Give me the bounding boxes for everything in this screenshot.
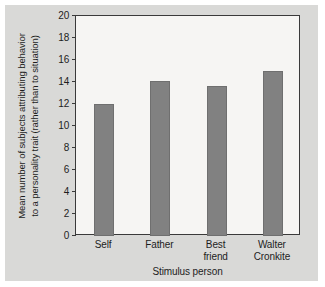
y-axis-tick-mark <box>72 37 76 38</box>
chart-figure: Mean number of subjects attributing beha… <box>0 0 325 287</box>
y-axis-tick-label: 12 <box>45 97 69 110</box>
y-axis-tick-label: 8 <box>45 141 69 154</box>
y-axis-tick-mark <box>72 15 76 16</box>
x-axis-title: Stimulus person <box>75 266 300 277</box>
y-axis-tick-mark <box>72 59 76 60</box>
y-axis-tick-mark <box>72 235 76 236</box>
y-axis-tick-mark <box>72 169 76 170</box>
y-axis-tick-label: 16 <box>45 53 69 66</box>
bar <box>263 71 283 236</box>
y-axis-tick-mark <box>72 147 76 148</box>
y-axis-tick-label: 18 <box>45 31 69 44</box>
y-axis-tick-label: 10 <box>45 119 69 132</box>
y-axis-tick-mark <box>72 213 76 214</box>
x-axis-tick-label-line: Walter <box>232 239 312 251</box>
y-axis-tick-label: 2 <box>45 207 69 220</box>
plot-frame: 02468101214161820 <box>75 15 300 235</box>
bar <box>150 81 170 236</box>
y-axis-title: Mean number of subjects attributing beha… <box>15 16 41 236</box>
plot-area: 02468101214161820 <box>76 16 299 234</box>
y-axis-tick-mark <box>72 103 76 104</box>
y-axis-tick-mark <box>72 81 76 82</box>
bar <box>207 86 227 236</box>
y-axis-title-line-1: Mean number of subjects attributing beha… <box>15 16 28 236</box>
x-axis-tick-label-line: Cronkite <box>232 251 312 263</box>
y-axis-tick-label: 6 <box>45 163 69 176</box>
y-axis-tick-label: 14 <box>45 75 69 88</box>
y-axis-title-line-2: to a personality trait (rather than to s… <box>28 16 41 236</box>
y-axis-tick-label: 20 <box>45 9 69 22</box>
y-axis-tick-label: 4 <box>45 185 69 198</box>
bar <box>94 104 114 236</box>
x-axis-tick-label: WalterCronkite <box>232 239 312 263</box>
y-axis-tick-mark <box>72 191 76 192</box>
y-axis-tick-mark <box>72 125 76 126</box>
